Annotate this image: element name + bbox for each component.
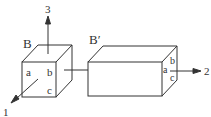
axis-3-arrow: [46, 16, 51, 54]
cube-b-face-a: a: [26, 66, 31, 78]
cube-b-label: B: [23, 36, 32, 51]
box-b-prime-face-a: a: [163, 64, 168, 75]
box-b-prime-label: B′: [89, 32, 101, 47]
axis-1-label: 1: [3, 106, 9, 117]
box-b-prime-face-b: b: [170, 55, 175, 66]
diagram-canvas: 3 1 2 B a b c B′ a b c: [0, 0, 211, 117]
cube-b-face-b: b: [47, 66, 53, 78]
cube-b-face-c: c: [47, 84, 52, 96]
box-b-prime-face-c: c: [170, 72, 175, 83]
axis-3-label: 3: [45, 3, 51, 15]
axis-2-arrow: [170, 69, 201, 74]
axis-2-label: 2: [204, 65, 210, 77]
